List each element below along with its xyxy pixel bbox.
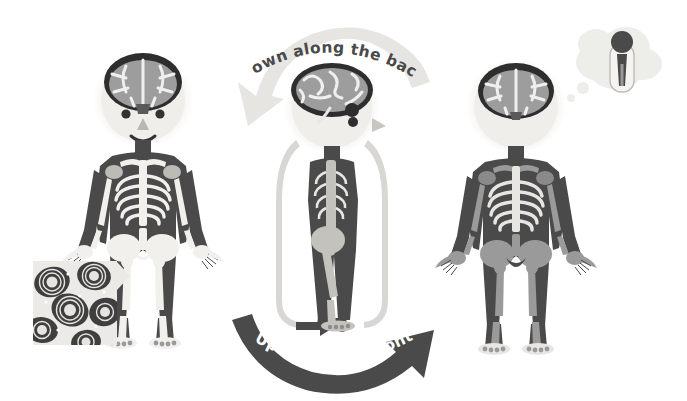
illustration-canvas: ...Down along the back... ...Up along th… (0, 0, 687, 401)
bone-microstructure-inset (24, 259, 124, 357)
thought-bubble-figure (610, 31, 634, 92)
illustration-svg: ...Down along the back... ...Up along th… (0, 0, 687, 401)
middle-eye (348, 117, 358, 127)
